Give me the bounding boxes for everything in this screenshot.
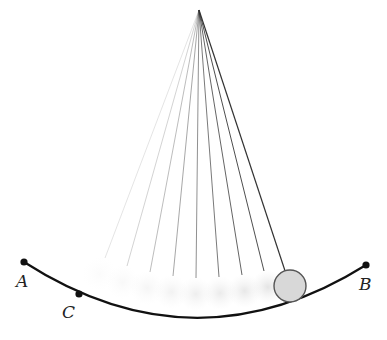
label-C: C	[62, 302, 75, 322]
pendulum-bob	[274, 270, 306, 302]
point-A	[20, 258, 27, 265]
ghost-string	[127, 10, 199, 266]
ghost-string	[105, 10, 199, 258]
label-B: B	[358, 274, 372, 294]
ghost-string	[196, 10, 199, 278]
current-string	[199, 10, 285, 271]
ghost-bob-trail	[82, 257, 285, 311]
label-A: A	[14, 271, 28, 291]
ghost-string	[199, 10, 242, 275]
pendulum-diagram: A C B	[0, 0, 387, 340]
point-C	[75, 290, 82, 297]
point-B	[362, 261, 369, 268]
ghost-string	[150, 10, 199, 272]
ghost-string	[173, 10, 199, 276]
pendulum-strings	[105, 10, 264, 278]
